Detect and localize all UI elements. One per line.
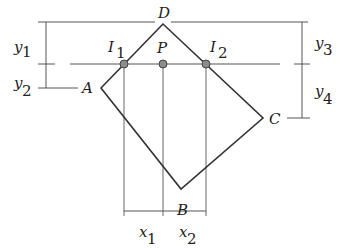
label-x1-subscript: 1 bbox=[147, 230, 157, 248]
label-i1: I bbox=[107, 38, 115, 56]
label-d: D bbox=[157, 4, 170, 22]
polygon-scanline-diagram: D A B C P I 1 I 2 y 1 y 2 y 3 y 4 x 1 x … bbox=[0, 0, 342, 251]
point-i2 bbox=[202, 60, 210, 68]
label-y1-subscript: 1 bbox=[22, 43, 32, 61]
label-i1-subscript: 1 bbox=[116, 44, 126, 62]
label-y2-subscript: 2 bbox=[22, 82, 32, 100]
label-y4-subscript: 4 bbox=[323, 90, 333, 108]
label-i2-subscript: 2 bbox=[218, 44, 228, 62]
label-p: P bbox=[156, 39, 168, 57]
point-p bbox=[159, 60, 167, 68]
label-b: B bbox=[176, 201, 188, 219]
label-y3-subscript: 3 bbox=[323, 41, 333, 59]
label-c: C bbox=[269, 110, 281, 128]
label-i2: I bbox=[209, 38, 217, 56]
label-a: A bbox=[80, 79, 93, 97]
label-x2-subscript: 2 bbox=[187, 230, 197, 248]
